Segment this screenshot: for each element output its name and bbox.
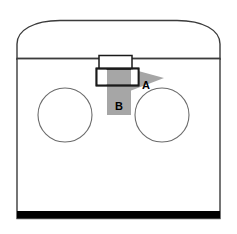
diagram-canvas: A B: [0, 0, 237, 234]
base-bar: [17, 211, 220, 218]
appliance-schematic: A B: [0, 0, 237, 234]
arched-top-outline: [17, 21, 220, 61]
label-b: B: [115, 100, 123, 112]
label-a: A: [142, 79, 150, 91]
upper-vent-box: [99, 56, 132, 70]
left-burner-circle: [38, 88, 92, 142]
lower-vent-box-right-fill: [131, 70, 138, 85]
right-burner-circle: [135, 88, 189, 142]
lower-vent-box-left-fill: [98, 70, 107, 85]
